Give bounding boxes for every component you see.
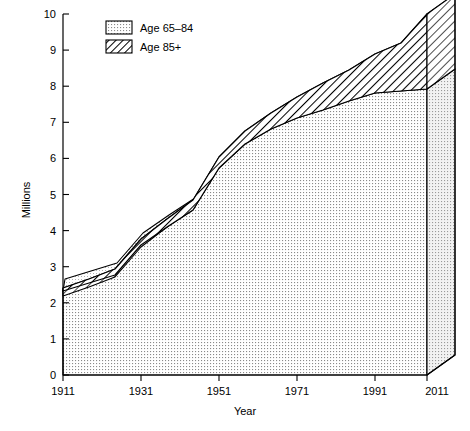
legend-swatch-age-85-plus [106, 40, 132, 53]
series-age-65-84-3d [63, 69, 455, 375]
x-tick-label-2011: 2011 [425, 385, 449, 397]
y-tick-label-4: 4 [50, 225, 56, 237]
x-tick-label-1991: 1991 [363, 385, 387, 397]
y-tick-label-6: 6 [50, 152, 56, 164]
legend-label-age-65-84: Age 65–84 [140, 22, 193, 34]
y-tick-label-8: 8 [50, 80, 56, 92]
x-axis-ticks [63, 375, 427, 381]
y-tick-label-7: 7 [50, 116, 56, 128]
chart-container: 0 1 2 3 4 5 6 7 8 9 10 Millions 1911 [0, 0, 470, 431]
y-axis-title: Millions [20, 181, 32, 218]
y-tick-label-5: 5 [50, 189, 56, 201]
x-axis: 1911 1931 1951 1971 1991 2011 Year [51, 375, 449, 417]
area-chart: 0 1 2 3 4 5 6 7 8 9 10 Millions 1911 [0, 0, 470, 431]
y-tick-label-3: 3 [50, 261, 56, 273]
x-tick-label-1911: 1911 [51, 385, 75, 397]
y-tick-label-0: 0 [50, 369, 56, 381]
legend-swatch-age-65-84 [106, 21, 132, 34]
series-65-84-right-face [427, 69, 455, 375]
x-axis-title: Year [234, 405, 257, 417]
y-axis: 0 1 2 3 4 5 6 7 8 9 10 Millions [20, 8, 69, 381]
y-tick-label-2: 2 [50, 297, 56, 309]
x-tick-label-1971: 1971 [285, 385, 309, 397]
plot-area [63, 0, 455, 375]
legend: Age 65–84 Age 85+ [106, 21, 193, 53]
x-tick-label-1951: 1951 [207, 385, 231, 397]
legend-label-age-85-plus: Age 85+ [140, 41, 181, 53]
y-tick-label-10: 10 [44, 8, 56, 20]
y-tick-label-9: 9 [50, 44, 56, 56]
y-tick-label-1: 1 [50, 333, 56, 345]
x-tick-label-1931: 1931 [129, 385, 153, 397]
